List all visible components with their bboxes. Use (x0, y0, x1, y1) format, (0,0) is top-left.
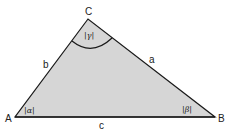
vertex-label-c: C (85, 6, 92, 17)
vertex-label-a: A (5, 113, 12, 124)
side-label-a: a (149, 54, 155, 65)
angle-label-beta: |β| (182, 105, 192, 114)
vertex-label-b: B (218, 113, 225, 124)
triangle-diagram: C A B b a c |γ| |α| |β| (0, 0, 231, 129)
angle-label-gamma: |γ| (84, 31, 94, 40)
angle-label-alpha: |α| (24, 106, 35, 115)
side-label-b: b (43, 59, 49, 70)
side-label-c: c (99, 120, 104, 129)
